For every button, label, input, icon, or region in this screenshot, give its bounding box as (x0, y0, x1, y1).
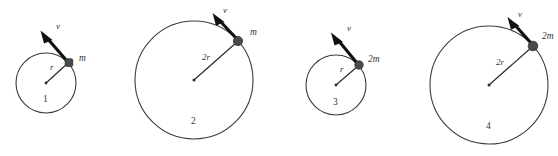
mass-label-1: m (79, 53, 86, 63)
panel-1: r m v 1 (16, 21, 86, 113)
velocity-label-3: v (347, 23, 351, 33)
center-dot-1 (45, 82, 48, 85)
mass-marker-2 (233, 36, 242, 45)
mass-marker-3 (355, 61, 363, 69)
radius-line-2 (194, 42, 237, 80)
center-dot-4 (488, 84, 491, 87)
panel-number-3: 3 (333, 97, 338, 107)
panel-number-2: 2 (191, 116, 196, 126)
panel-4: 2r 2m v 4 (430, 9, 554, 144)
mass-label-3: 2m (368, 54, 380, 64)
radius-label-3: r (340, 64, 344, 74)
center-dot-2 (193, 79, 196, 82)
mass-label-2: m (250, 27, 257, 37)
mass-marker-4 (528, 41, 538, 51)
velocity-label-2: v (223, 5, 227, 15)
radius-label-1: r (50, 62, 54, 72)
mass-label-4: 2m (542, 31, 554, 41)
diagram-canvas: r m v 1 2r m v 2 r 2m v (0, 0, 558, 156)
physics-figure: r m v 1 2r m v 2 r 2m v (0, 0, 558, 156)
panel-number-4: 4 (486, 121, 491, 131)
panel-number-1: 1 (43, 94, 48, 104)
radius-label-2: 2r (202, 52, 211, 62)
radius-label-4: 2r (496, 57, 505, 67)
velocity-label-1: v (56, 21, 60, 31)
velocity-label-4: v (518, 9, 522, 19)
center-dot-3 (335, 84, 338, 87)
panel-3: r 2m v 3 (306, 23, 380, 115)
velocity-arrow-shaft-1 (47, 38, 67, 61)
velocity-arrow-shaft-3 (338, 40, 357, 63)
mass-marker-1 (65, 59, 73, 67)
panel-2: 2r m v 2 (135, 5, 257, 139)
